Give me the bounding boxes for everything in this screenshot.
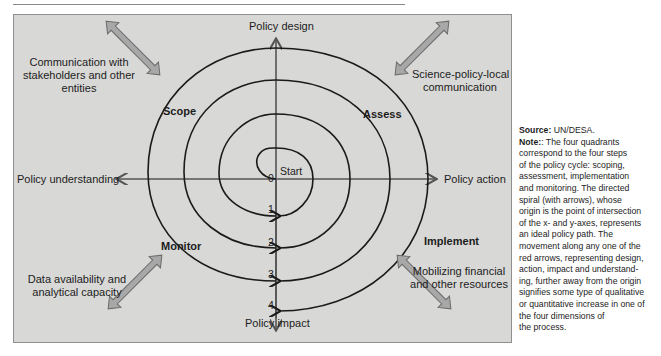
axis-label-policy-action: Policy action xyxy=(444,173,506,186)
quadrant-label-implement: Implement xyxy=(424,235,479,248)
axis-label-policy-design: Policy design xyxy=(249,20,314,33)
corner-note-bottom-left: Data availability and analytical capacit… xyxy=(24,273,130,299)
double-arrows xyxy=(100,15,456,314)
axis-mark-3: 3 xyxy=(268,268,274,281)
quadrant-label-monitor: Monitor xyxy=(161,240,201,253)
note-label: Note: xyxy=(519,137,541,147)
axis-mark-0: 0 xyxy=(268,172,274,185)
source-value: UN/DESA. xyxy=(554,125,595,135)
axis-label-policy-impact: Policy impact xyxy=(245,317,310,330)
source-note-block: Source: UN/DESA. Note:: The four quadran… xyxy=(519,125,661,334)
corner-note-top-right: Science-policy-local communication xyxy=(412,68,508,94)
corner-note-bottom-right: Mobilizing financial and other resources xyxy=(408,265,510,291)
axis-mark-2: 2 xyxy=(268,236,274,249)
axes xyxy=(118,40,435,329)
axis-label-policy-understanding: Policy understanding xyxy=(17,173,119,186)
source-label: Source: xyxy=(519,125,551,135)
corner-note-top-left: Communication with stakeholders and othe… xyxy=(20,56,138,95)
start-label: Start xyxy=(280,165,302,178)
quadrant-label-scope: Scope xyxy=(163,105,196,118)
quadrant-label-assess: Assess xyxy=(363,108,402,121)
axis-mark-1: 1 xyxy=(268,203,274,216)
axis-mark-4: 4 xyxy=(268,299,274,312)
